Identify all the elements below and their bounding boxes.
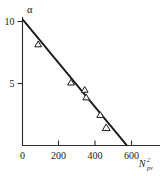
x-axis-title-superscript: 2	[147, 157, 150, 163]
data-point-marker	[97, 112, 104, 118]
x-axis-title: N 2 pv	[138, 157, 153, 171]
data-point-marker	[81, 87, 88, 93]
x-tick-label-400: 400	[88, 150, 103, 161]
linear-fit-line	[23, 20, 127, 146]
y-axis-title: α	[27, 4, 33, 15]
x-axis-title-subscript: pv	[146, 165, 153, 171]
y-tick-label-5: 5	[10, 78, 15, 89]
x-tick-label-600: 600	[124, 150, 139, 161]
scatter-chart: 10 5 0 200 400 600 α N 2 pv	[0, 0, 164, 176]
chart-container: 10 5 0 200 400 600 α N 2 pv	[0, 0, 164, 176]
y-tick-label-10: 10	[5, 16, 15, 27]
x-tick-label-0: 0	[20, 150, 25, 161]
x-axis-title-base: N	[138, 158, 147, 169]
data-point-marker	[83, 94, 90, 100]
x-tick-label-200: 200	[51, 150, 66, 161]
